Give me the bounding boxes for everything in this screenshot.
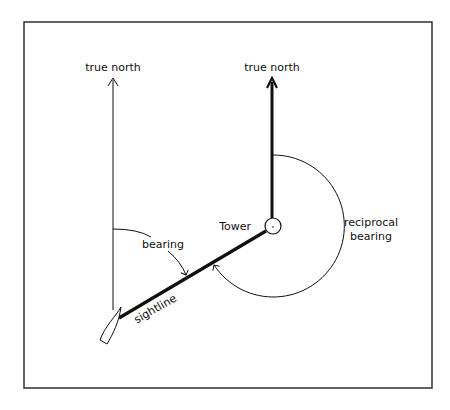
reciprocal-bearing-label-line2: bearing [350, 230, 392, 243]
bearing-arc-lower [168, 251, 186, 275]
right-true-north-label: true north [244, 61, 300, 74]
boat-icon [100, 307, 121, 344]
bearing-diagram: true north true north Tower reciprocal b… [0, 0, 450, 410]
tower-icon [265, 218, 281, 234]
left-true-north-arrow [108, 78, 118, 310]
diagram-frame [24, 22, 432, 388]
bearing-arc-upper [113, 229, 151, 237]
tower-label: Tower [218, 220, 251, 233]
left-true-north-label: true north [85, 61, 141, 74]
bearing-label: bearing [142, 238, 184, 251]
reciprocal-bearing-label-line1: reciprocal [344, 216, 398, 229]
right-true-north-arrow [267, 78, 277, 218]
